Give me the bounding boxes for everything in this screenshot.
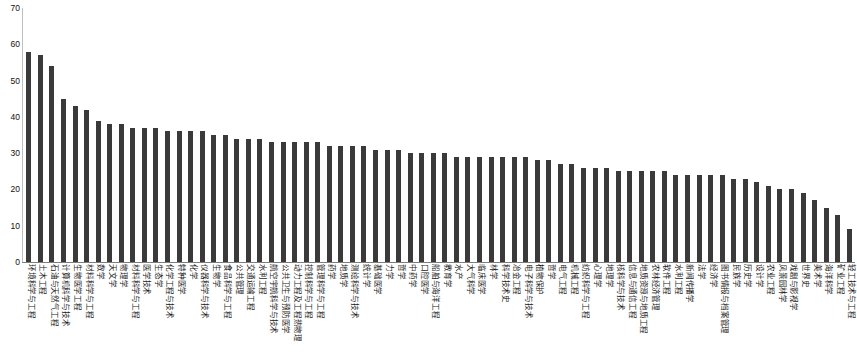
bar [257, 139, 262, 262]
x-axis-tick-label: 核科学与技术 [615, 264, 626, 356]
y-axis-tick-label: 0 [15, 258, 20, 267]
bar [419, 153, 424, 262]
x-axis-tick-label: 物理学 [118, 264, 129, 356]
x-axis-tick-label: 生态学 [153, 264, 164, 356]
bar [489, 157, 494, 262]
x-axis-tick-label: 水利工程 [257, 264, 268, 356]
x-axis-tick-label: 测绘科学与技术 [349, 264, 360, 356]
bar [96, 121, 101, 263]
bar [812, 200, 817, 262]
bar [754, 182, 759, 262]
y-axis: 010203040506070 [0, 0, 24, 266]
x-axis-tick-label: 生物学 [211, 264, 222, 356]
bar [581, 168, 586, 262]
x-axis-tick-label: 药学 [326, 264, 337, 356]
bar [558, 164, 563, 262]
x-axis-tick-label: 新闻传播学 [684, 264, 695, 356]
x-axis-tick-label: 海洋科学 [823, 264, 834, 356]
bar [269, 142, 274, 262]
bar [743, 179, 748, 262]
x-axis-tick-label: 法学 [696, 264, 707, 356]
bar [500, 157, 505, 262]
x-axis-tick-label: 环境科学与工程 [26, 264, 37, 356]
bar [338, 146, 343, 262]
bar [211, 135, 216, 262]
x-axis-tick-label: 信息与通信工程 [627, 264, 638, 356]
bar [292, 142, 297, 262]
bar [281, 142, 286, 262]
bar [396, 150, 401, 262]
bar [569, 164, 574, 262]
x-axis-tick-label: 材料科学与工程 [84, 264, 95, 356]
x-axis-tick-label: 地理学 [604, 264, 615, 356]
y-axis-tick-label: 20 [11, 185, 20, 194]
x-axis-tick-label: 纺织科学与工程 [580, 264, 591, 356]
x-axis-tick-label: 轻工技术与工程 [846, 264, 857, 356]
x-axis-tick-label: 大气科学 [465, 264, 476, 356]
x-axis-tick-label: 生物医学工程 [72, 264, 83, 356]
x-axis-tick-label: 地质资源与地质工程 [638, 264, 649, 356]
x-axis-tick-label: 力学 [384, 264, 395, 356]
x-axis-tick-label: 林学 [488, 264, 499, 356]
x-axis-tick-label: 民族学 [731, 264, 742, 356]
x-axis-tick-label: 风景园林学 [777, 264, 788, 356]
x-axis-tick-label: 哲学 [546, 264, 557, 356]
bar [697, 175, 702, 262]
bar [835, 215, 840, 262]
bar [720, 175, 725, 262]
x-axis-tick-label: 计算机科学与技术 [60, 264, 71, 356]
y-axis-tick-label: 70 [11, 4, 20, 13]
x-axis-tick-label: 哲学 [396, 264, 407, 356]
y-axis-tick-label: 30 [11, 149, 20, 158]
x-axis-tick-label: 动力工程及工程热物理 [292, 264, 303, 356]
bar [177, 131, 182, 262]
x-axis-tick-label: 农林经济管理 [650, 264, 661, 356]
bar [142, 128, 147, 262]
bar [49, 66, 54, 262]
x-axis-tick-label: 控制科学与工程 [303, 264, 314, 356]
x-axis-tick-label: 化学 [188, 264, 199, 356]
x-axis-tick-label: 公共管理 [234, 264, 245, 356]
plot-area [23, 8, 855, 262]
bar [454, 157, 459, 262]
x-axis-tick-label: 冶金工程 [511, 264, 522, 356]
x-axis-tick-label: 医学技术 [141, 264, 152, 356]
bar [119, 124, 124, 262]
x-axis-tick-label: 航空宇航科学与技术 [268, 264, 279, 356]
bar [304, 142, 309, 262]
y-axis-tick-label: 10 [11, 221, 20, 230]
x-axis-tick-label: 船舶与海洋工程 [430, 264, 441, 356]
bar [708, 175, 713, 262]
bar [662, 171, 667, 262]
bar [188, 131, 193, 262]
x-axis-tick-label: 地质学 [338, 264, 349, 356]
bar [84, 110, 89, 262]
x-axis-tick-label: 设计学 [754, 264, 765, 356]
bar [535, 160, 540, 262]
bar [361, 146, 366, 262]
bar [512, 157, 517, 262]
bar [731, 179, 736, 262]
bar [777, 189, 782, 262]
x-axis-tick-label: 石油与天然气工程 [49, 264, 60, 356]
bar [26, 52, 31, 262]
bar [616, 171, 621, 262]
bar [604, 168, 609, 262]
bar [523, 157, 528, 262]
bar-chart: 010203040506070 环境科学与工程土木工程石油与天然气工程计算机科学… [0, 0, 857, 356]
bar [431, 153, 436, 262]
x-axis-tick-label: 统计学 [361, 264, 372, 356]
bar [650, 171, 655, 262]
bar [107, 124, 112, 262]
x-axis-tick-label: 戏剧与影视学 [788, 264, 799, 356]
x-axis-tick-label: 管理科学与工程 [315, 264, 326, 356]
x-axis-tick-label: 水产 [453, 264, 464, 356]
bar [824, 208, 829, 262]
bar [801, 193, 806, 262]
bar [627, 171, 632, 262]
x-axis-line [22, 262, 855, 263]
bar [685, 175, 690, 262]
x-axis-tick-label: 心理学 [592, 264, 603, 356]
bar [408, 153, 413, 262]
x-axis-tick-label: 交通运输工程 [245, 264, 256, 356]
